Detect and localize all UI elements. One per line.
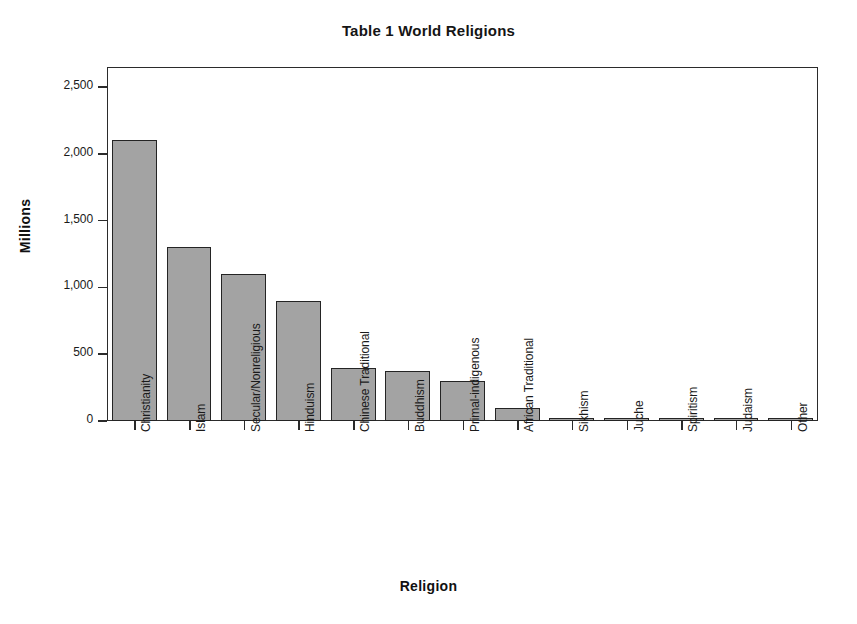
y-axis-tick-label: 2,000 [63,145,93,159]
x-axis-tick-label: Primal-indigenous [468,338,482,432]
x-axis-tick-mark [572,421,574,430]
y-axis-tick-label: 1,000 [63,278,93,292]
x-axis-tick-label: African Traditional [522,338,536,432]
x-axis-tick-label: Islam [194,404,208,432]
x-axis-tick-mark [463,421,465,430]
x-axis-tick-label: Juche [632,400,646,432]
y-axis-title: Millions [17,186,33,266]
y-axis-tick-label: 500 [73,345,93,359]
x-axis-tick-label: Secular/Nonreligious [249,323,263,432]
y-axis-tick-mark [98,153,107,155]
x-axis-tick-mark [627,421,629,430]
x-axis-tick-mark [736,421,738,430]
x-axis-tick-label: Judaism [741,388,755,432]
x-axis-tick-mark [189,421,191,430]
chart-title: Table 1 World Religions [0,22,857,39]
chart-figure: Table 1 World Religions Millions 05001,0… [0,0,857,624]
y-axis-tick-mark [98,86,107,88]
bar [167,247,212,421]
x-axis-tick-mark [244,421,246,430]
y-axis-tick-label: 0 [86,412,93,426]
x-axis-tick-mark [681,421,683,430]
y-axis-tick-mark [98,287,107,289]
x-axis-tick-mark [517,421,519,430]
x-axis-tick-mark [298,421,300,430]
x-axis-tick-label: Chinese Traditional [358,331,372,432]
x-axis-title: Religion [0,578,857,594]
x-axis-tick-label: Sikhism [577,391,591,432]
y-axis-tick-label: 1,500 [63,212,93,226]
x-axis-tick-label: Buddhism [413,379,427,432]
x-axis-tick-mark [134,421,136,430]
y-axis-tick-mark [98,420,107,422]
x-axis-tick-label: Christianity [139,374,153,432]
x-axis-tick-label: Spiritism [686,387,700,432]
y-axis-tick-label: 2,500 [63,78,93,92]
x-axis-tick-mark [791,421,793,430]
y-axis-tick-mark [98,353,107,355]
x-axis-tick-mark [408,421,410,430]
x-axis-tick-label: Hinduism [303,383,317,432]
y-axis-tick-mark [98,220,107,222]
x-axis-tick-label: Other [796,402,810,432]
bar-series [107,67,818,421]
x-axis-tick-mark [353,421,355,430]
